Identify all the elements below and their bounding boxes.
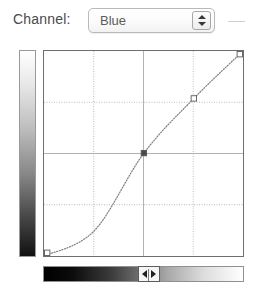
arrow-left-icon — [142, 270, 147, 278]
curve-control-point[interactable] — [141, 150, 146, 155]
channel-select-value: Blue — [100, 13, 126, 28]
input-ramp-handle[interactable] — [138, 266, 160, 282]
curve-canvas[interactable] — [44, 51, 243, 256]
stepper-icon[interactable] — [192, 11, 211, 30]
channel-label: Channel: — [13, 11, 71, 27]
channel-row: Channel: Blue — [0, 0, 263, 40]
curve-control-point[interactable] — [237, 52, 242, 57]
curve-graph[interactable] — [43, 50, 244, 257]
channel-select[interactable]: Blue — [88, 8, 215, 33]
curve-control-point[interactable] — [191, 96, 196, 101]
curve-control-point[interactable] — [45, 250, 50, 255]
arrow-right-icon — [151, 270, 156, 278]
handle-divider — [148, 269, 149, 281]
output-gradient-ramp — [19, 50, 36, 257]
chevron-down-icon — [198, 22, 206, 26]
input-gradient-ramp[interactable] — [43, 266, 244, 282]
header-divider — [228, 21, 245, 22]
chevron-up-icon — [198, 15, 206, 19]
